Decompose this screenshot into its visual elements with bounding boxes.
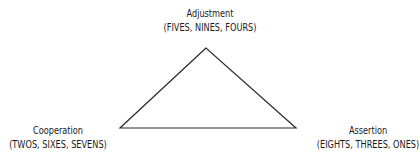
- vertex-title: Cooperation: [0, 123, 136, 137]
- vertex-subtitle: (TWOS, SIXES, SEVENS): [0, 137, 136, 151]
- vertex-title: Assertion: [290, 123, 420, 137]
- vertex-title: Adjustment: [132, 6, 288, 20]
- vertex-label-adjustment: Adjustment (FIVES, NINES, FOURS): [132, 6, 288, 34]
- vertex-subtitle: (EIGHTS, THREES, ONES): [290, 137, 420, 151]
- vertex-subtitle: (FIVES, NINES, FOURS): [132, 20, 288, 34]
- triangle-shape: [120, 48, 296, 128]
- vertex-label-cooperation: Cooperation (TWOS, SIXES, SEVENS): [0, 123, 136, 151]
- vertex-label-assertion: Assertion (EIGHTS, THREES, ONES): [290, 123, 420, 151]
